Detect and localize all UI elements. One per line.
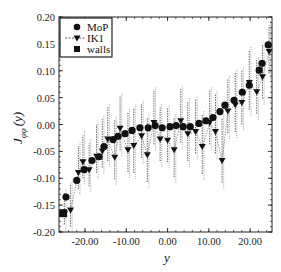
mop-point [216, 108, 223, 115]
ik1-dashed-line [64, 52, 269, 214]
mop-point [221, 102, 228, 109]
svg-text:Jφφ(y): Jφφ(y) [10, 112, 28, 144]
y-tick-label: 0.10 [37, 66, 55, 77]
mop-point [100, 143, 107, 150]
mop-point [239, 89, 246, 96]
ik1-point [253, 89, 260, 95]
mop-point [136, 124, 143, 131]
x-tick-label: 20.00 [238, 236, 262, 247]
mop-point [88, 157, 95, 164]
y-tick-label: -0.20 [33, 227, 55, 238]
ik1-point [157, 137, 164, 143]
mop-point [95, 153, 102, 160]
ik1-point [184, 131, 191, 137]
mop-point [62, 193, 69, 200]
ik1-point [111, 155, 118, 161]
mop-point [121, 130, 128, 137]
mop-point [152, 122, 159, 129]
ik1-point [212, 129, 219, 135]
y-tick-label: 0.00 [37, 120, 55, 131]
y-tick-label: -0.15 [33, 200, 55, 211]
ik1-point [79, 159, 86, 165]
mop-point [256, 67, 263, 74]
x-tick-label: -10.00 [113, 236, 140, 247]
ik1-point [164, 138, 171, 144]
y-tick-label: 0.20 [37, 12, 55, 23]
mop-point [145, 124, 152, 131]
mop-point [173, 122, 180, 129]
x-tick-label: -20.00 [71, 236, 98, 247]
mop-point [114, 133, 121, 140]
ik1-point [138, 133, 145, 139]
ik1-point [192, 129, 199, 135]
legend: MoP IK1 walls [60, 18, 112, 57]
y-tick-label: -0.10 [33, 173, 55, 184]
mop-point [195, 120, 202, 127]
mop-point [73, 177, 80, 184]
mop-point [209, 114, 216, 121]
x-axis-label: y [162, 250, 170, 265]
y-tick-label: 0.15 [37, 39, 55, 50]
legend-walls-marker [74, 46, 80, 52]
ik1-point [117, 126, 124, 132]
mop-point [187, 123, 194, 130]
mop-point [180, 123, 187, 130]
mop-point [128, 127, 135, 134]
mop-point [246, 82, 253, 89]
ik1-point [171, 147, 178, 153]
ik1-point [144, 152, 151, 158]
ik1-point [224, 109, 231, 115]
mop-point [159, 124, 166, 131]
y-axis-label-arg: (y) [10, 112, 25, 126]
x-tick-label: 10.00 [197, 236, 221, 247]
x-tick-label: 0.00 [158, 236, 176, 247]
mop-point [230, 97, 237, 104]
ik1-point [259, 74, 266, 80]
y-tick-label: 0.05 [37, 93, 55, 104]
mop-point [202, 117, 209, 124]
mop-point [81, 166, 88, 173]
ik1-point [124, 147, 131, 153]
ik1-point [199, 144, 206, 150]
y-tick-label: -0.05 [33, 146, 55, 157]
y-axis-label: Jφφ(y) [10, 112, 28, 144]
mop-point [258, 60, 265, 67]
mop-point [265, 41, 272, 48]
mop-point [166, 123, 173, 130]
data-points [59, 41, 272, 217]
chart: -20.00-10.000.0010.0020.00 0.200.150.100… [0, 0, 281, 272]
legend-mop-marker [74, 24, 81, 31]
y-axis-label-sub: φφ [18, 128, 28, 138]
legend-walls-label: walls [87, 43, 110, 55]
ik1-point [219, 158, 226, 164]
ik1-point [67, 208, 74, 214]
ik1-point [238, 100, 245, 106]
